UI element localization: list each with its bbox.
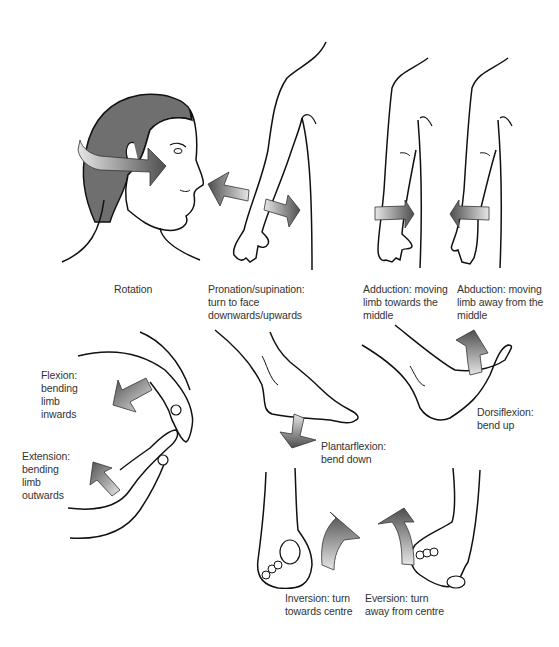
- arm-adduction-illustration: [375, 58, 432, 268]
- label-flexion: Flexion: bending limb inwards: [41, 369, 78, 421]
- foot-plantarflexion-illustration: [215, 330, 358, 448]
- inversion-arrow-icon: [322, 512, 360, 570]
- head-illustration: [62, 94, 203, 262]
- label-inversion: Inversion: turn towards centre: [285, 592, 352, 618]
- label-pronation-supination: Pronation/supination: turn to face downw…: [208, 283, 305, 322]
- hands-flexion-extension-illustration: [68, 332, 193, 538]
- foot-inversion-illustration: [258, 468, 360, 588]
- pronation-arrow-left-icon: [208, 172, 249, 206]
- label-dorsiflexion: Dorsiflexion: bend up: [477, 406, 533, 432]
- label-extension: Extension: bending limb outwards: [22, 450, 70, 502]
- joint-movement-diagram: Rotation Pronation/supination: turn to f…: [0, 0, 559, 647]
- eversion-arrow-icon: [378, 508, 414, 565]
- flexion-arrow-icon: [113, 378, 152, 412]
- illustration-canvas: [0, 0, 559, 647]
- label-rotation: Rotation: [114, 283, 152, 296]
- arm-abduction-illustration: [450, 58, 512, 268]
- arm-pronation-illustration: [208, 42, 326, 270]
- label-abduction: Abduction: moving limb away from the mid…: [457, 283, 543, 322]
- label-adduction: Adduction: moving limb towards the middl…: [363, 283, 448, 322]
- label-plantarflexion: Plantarflexion: bend down: [321, 440, 386, 466]
- label-eversion: Eversion: turn away from centre: [365, 592, 444, 618]
- supination-arrow-right-icon: [264, 195, 300, 227]
- foot-eversion-illustration: [378, 468, 480, 588]
